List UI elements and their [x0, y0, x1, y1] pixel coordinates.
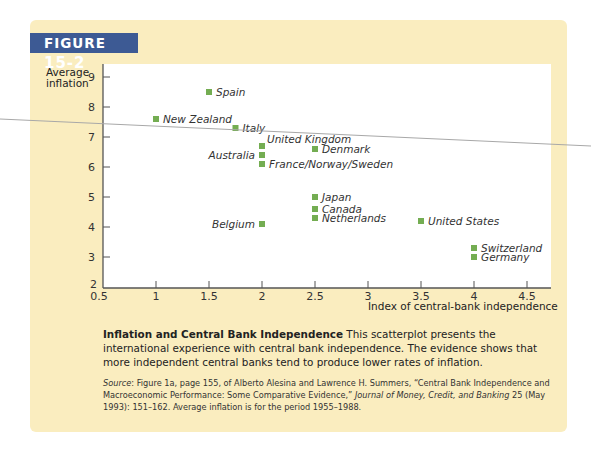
scan-artifact-line	[0, 0, 591, 453]
